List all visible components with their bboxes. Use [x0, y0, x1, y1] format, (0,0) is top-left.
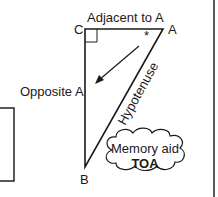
cloud-line2: TOA: [131, 156, 159, 171]
adjacent-label: Adjacent to A: [87, 10, 164, 25]
cloud-line1: Memory aid: [111, 141, 179, 156]
right-angle-marker: [85, 29, 97, 42]
vertex-a-label: A: [168, 22, 177, 37]
vertex-c-label: C: [74, 22, 83, 37]
opposite-label: Opposite A: [20, 84, 84, 99]
arrow-line: [99, 46, 139, 80]
right-triangle-diagram: * C A B Adjacent to A Opposite A Hypoten…: [0, 0, 218, 197]
angle-marker: *: [144, 28, 149, 43]
vertex-b-label: B: [80, 172, 89, 187]
left-box: [0, 108, 14, 181]
hypotenuse-label: Hypotenuse: [115, 59, 162, 127]
